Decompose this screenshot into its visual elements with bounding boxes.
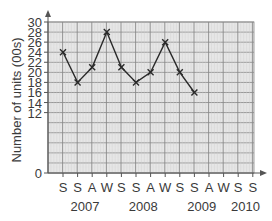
x-tick-label: S [234,180,243,195]
x-tick-label: A [88,180,97,195]
y-tick-label: 0 [35,166,42,181]
x-axis-ticks: SSAWSSAWSSAWSS [59,173,258,195]
x-tick-label: W [159,180,172,195]
x-tick-label: S [59,180,68,195]
x-tick-label: S [117,180,126,195]
x-tick-label: A [146,180,155,195]
year-label: 2010 [231,199,260,214]
x-tick-label: S [132,180,141,195]
x-tick-label: S [175,180,184,195]
chart-grid [48,22,254,173]
y-axis-ticks: 012141618202224262830 [28,15,48,181]
x-tick-label: S [248,180,257,195]
year-label: 2009 [187,199,216,214]
x-tick-label: W [217,180,230,195]
y-axis-title: Number of units (00s) [9,38,24,163]
x-tick-label: W [101,180,114,195]
year-label: 2007 [70,199,99,214]
x-tick-label: A [205,180,214,195]
x-tick-label: S [73,180,82,195]
year-label: 2008 [129,199,158,214]
y-tick-label: 30 [28,15,42,30]
line-chart: 012141618202224262830 SSAWSSAWSSAWSS 200… [0,0,272,221]
x-tick-label: S [190,180,199,195]
x-axis-arrow-icon [260,170,267,176]
year-labels: 2007200820092010 [70,199,260,214]
y-axis-arrow-icon [45,10,51,17]
